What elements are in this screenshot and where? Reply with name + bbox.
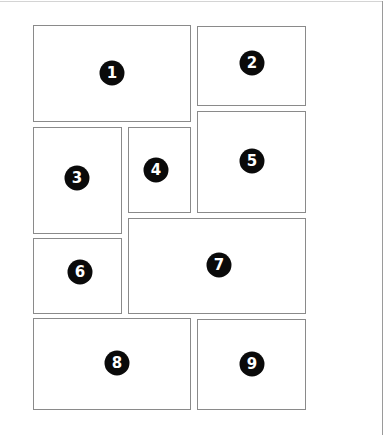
page-frame-right-edge [382,1,383,435]
panel-number-badge-4: 4 [144,158,169,183]
panel-number-badge-6: 6 [68,260,93,285]
panel-number-badge-2: 2 [240,51,265,76]
panel-number-badge-7: 7 [207,253,232,278]
panel-number-badge-1: 1 [100,61,125,86]
panel-number-badge-8: 8 [105,351,130,376]
page-frame-top-edge [0,1,383,2]
panel-number-badge-5: 5 [240,149,265,174]
panel-number-badge-3: 3 [65,166,90,191]
panel-number-badge-9: 9 [240,352,265,377]
